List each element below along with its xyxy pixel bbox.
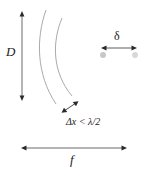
focal-length-label: f xyxy=(70,153,74,166)
element-spacing-label: Δx < λ/2 xyxy=(66,117,100,127)
focal-dot-right xyxy=(132,52,138,58)
figure-graphics xyxy=(0,0,147,169)
wavefront-arc-outer xyxy=(39,10,56,104)
focal-length-arrow xyxy=(21,146,127,151)
aperture-arrowhead-bottom xyxy=(20,96,25,102)
figure-canvas: D δ Δx < λ/2 f xyxy=(0,0,147,169)
focal-length-arrowhead-left xyxy=(21,146,27,151)
focal-dot-left xyxy=(100,52,106,58)
aperture-arrow xyxy=(20,11,25,101)
aperture-arrowhead-top xyxy=(20,11,25,17)
element-spacing-arrowhead-upper xyxy=(73,101,79,106)
element-spacing-arrow xyxy=(62,101,79,113)
wavefront-arcs xyxy=(39,10,72,104)
spot-size-arrowhead-right xyxy=(132,46,138,51)
focal-dots xyxy=(100,52,138,58)
element-spacing-arrow-shaft xyxy=(64,103,76,111)
aperture-label: D xyxy=(6,45,15,58)
focal-length-arrowhead-right xyxy=(122,146,128,151)
wavefront-arc-inner xyxy=(55,18,72,96)
spot-size-arrow xyxy=(101,46,137,51)
spot-size-label: δ xyxy=(114,30,120,42)
element-spacing-arrowhead-lower xyxy=(62,108,68,113)
spot-size-arrowhead-left xyxy=(101,46,107,51)
